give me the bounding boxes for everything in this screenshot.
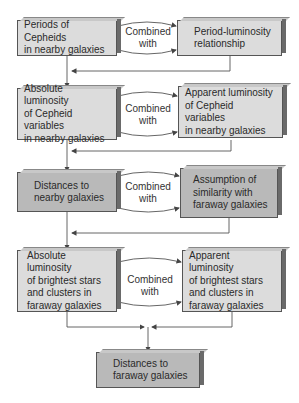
box-label: Periods of Cepheids in nearby galaxies <box>24 19 110 57</box>
combined-with-label: Combined with <box>124 181 172 205</box>
distances-faraway-galaxies-box: Distances to faraway galaxies <box>96 352 200 388</box>
period-luminosity-relationship-box: Period-luminosity relationship <box>177 20 282 56</box>
combined-with-label: Combined with <box>124 26 172 50</box>
box-label: Apparent luminosity of Cepheid variables… <box>185 87 276 137</box>
combined-with-label: Combined with <box>126 274 174 298</box>
distances-nearby-galaxies-box: Distances to nearby galaxies <box>17 172 117 212</box>
box-label: Distances to faraway galaxies <box>113 358 187 383</box>
apparent-luminosity-brightest-stars-box: Apparent luminosity of brightest stars a… <box>182 250 282 312</box>
box-label: Absolute luminosity of brightest stars a… <box>27 250 110 313</box>
combined-with-label: Combined with <box>124 103 172 127</box>
box-label: Apparent luminosity of brightest stars a… <box>189 250 275 313</box>
box-label: Assumption of similarity with faraway ga… <box>193 174 267 212</box>
absolute-luminosity-brightest-stars-box: Absolute luminosity of brightest stars a… <box>17 250 117 312</box>
periods-of-cepheids-box: Periods of Cepheids in nearby galaxies <box>17 20 117 56</box>
assumption-of-similarity-box: Assumption of similarity with faraway ga… <box>180 168 278 218</box>
box-label: Period-luminosity relationship <box>194 26 271 51</box>
absolute-luminosity-cepheids-box: Absolute luminosity of Cepheid variables… <box>17 88 117 140</box>
box-label: Absolute luminosity of Cepheid variables… <box>24 83 110 146</box>
box-label: Distances to nearby galaxies <box>34 180 104 205</box>
apparent-luminosity-cepheids-box: Apparent luminosity of Cepheid variables… <box>178 86 283 138</box>
